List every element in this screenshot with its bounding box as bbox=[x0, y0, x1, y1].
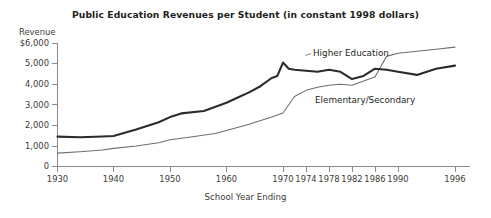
y-tick-label-5000: 5,000 bbox=[25, 58, 49, 68]
x-tick-label-1940: 1940 bbox=[103, 174, 124, 184]
chart-plot-area: 0 1,000 2,000 3,000 4,000 5,000 $6,000 1… bbox=[0, 0, 491, 218]
x-tick-label-1950: 1950 bbox=[159, 174, 180, 184]
x-tick-label-1990: 1990 bbox=[387, 174, 408, 184]
y-tick-label-6000: $6,000 bbox=[20, 38, 49, 48]
y-axis-ticks bbox=[52, 43, 58, 167]
x-axis-tick-labels: 1930 1940 1950 1960 1970 1974 1978 1982 … bbox=[47, 174, 466, 184]
higher-education-leader bbox=[306, 54, 312, 56]
annotation-higher-education: Higher Education bbox=[313, 48, 389, 58]
y-tick-label-0: 0 bbox=[44, 161, 49, 171]
x-tick-label-1986: 1986 bbox=[364, 174, 385, 184]
x-axis-ticks bbox=[58, 167, 456, 173]
y-tick-label-1000: 1,000 bbox=[25, 141, 49, 151]
y-tick-label-3000: 3,000 bbox=[25, 100, 49, 110]
x-tick-label-1970: 1970 bbox=[272, 174, 293, 184]
x-tick-label-1974: 1974 bbox=[295, 174, 316, 184]
y-tick-label-2000: 2,000 bbox=[25, 120, 49, 130]
x-tick-label-1996: 1996 bbox=[444, 174, 465, 184]
chart-container: Public Education Revenues per Student (i… bbox=[0, 0, 491, 218]
x-tick-label-1978: 1978 bbox=[318, 174, 339, 184]
x-axis-title: School Year Ending bbox=[0, 192, 491, 202]
annotation-elementary-secondary: Elementary/Secondary bbox=[315, 95, 415, 105]
y-tick-label-4000: 4,000 bbox=[25, 79, 49, 89]
x-tick-label-1960: 1960 bbox=[216, 174, 237, 184]
y-axis-tick-labels: 0 1,000 2,000 3,000 4,000 5,000 $6,000 bbox=[20, 38, 49, 172]
x-tick-label-1982: 1982 bbox=[341, 174, 362, 184]
x-tick-label-1930: 1930 bbox=[47, 174, 68, 184]
